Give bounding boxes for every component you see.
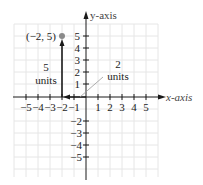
x-tick-label: −5 (20, 101, 32, 113)
x-tick-label: 1 (95, 101, 101, 113)
arrowhead-up-icon (60, 39, 65, 46)
point-marker (59, 33, 65, 39)
x-tick-labels: −5 −4 −3 −2 −1 1 2 3 4 5 (20, 101, 149, 113)
x-tick-label: −1 (68, 101, 80, 113)
arrowhead-left-icon (63, 95, 70, 100)
y-tick-label: 3 (75, 54, 81, 66)
horizontal-distance-value: 2 (115, 58, 121, 70)
y-axis-arrow-icon (84, 11, 89, 19)
x-tick-label: 5 (143, 101, 149, 113)
y-tick-label: −3 (70, 127, 82, 139)
horizontal-distance-unit: units (107, 70, 128, 82)
vertical-distance-unit: units (35, 74, 56, 86)
y-tick-label: 2 (75, 66, 81, 78)
y-tick-label: −2 (70, 115, 82, 127)
y-axis (83, 11, 89, 180)
y-tick-label: 4 (75, 42, 81, 54)
x-tick-label: 2 (107, 101, 113, 113)
x-tick-label: 3 (119, 101, 125, 113)
x-tick-label: 4 (131, 101, 137, 113)
x-tick-label: −2 (56, 101, 68, 113)
y-tick-label: 1 (75, 78, 81, 90)
y-tick-label: −5 (70, 151, 82, 163)
annotation-pointer-line (80, 77, 103, 97)
x-axis (13, 94, 166, 100)
x-axis-arrow-icon (158, 95, 166, 100)
y-axis-label: y-axis (90, 9, 117, 21)
vertical-distance-value: 5 (43, 61, 49, 73)
y-tick-label: −4 (70, 139, 82, 151)
x-tick-label: −4 (32, 101, 44, 113)
coordinate-plane: −5 −4 −3 −2 −1 1 2 3 4 5 5 4 3 2 1 −2 −3… (0, 0, 203, 185)
point-label: (−2, 5) (26, 30, 56, 43)
x-tick-label: −3 (44, 101, 56, 113)
x-axis-label: x-axis (165, 91, 192, 103)
y-tick-label: 5 (75, 30, 81, 42)
